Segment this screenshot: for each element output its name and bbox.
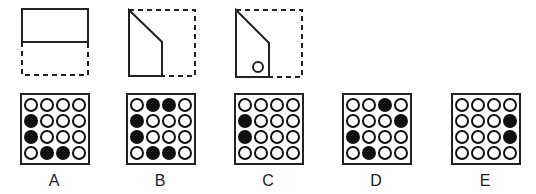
empty-hole-icon [286,98,300,112]
option-d[interactable]: D [342,93,410,190]
empty-hole-icon [24,146,38,160]
empty-hole-icon [40,114,54,128]
empty-hole-icon [56,98,70,112]
punch-step-diagram [232,6,306,80]
option-a[interactable]: A [20,93,88,190]
empty-hole-icon [178,130,192,144]
option-b-grid [126,93,196,165]
empty-hole-icon [346,146,360,160]
filled-hole-icon [24,114,38,128]
option-a-grid [20,93,90,165]
empty-hole-icon [286,146,300,160]
filled-hole-icon [130,114,144,128]
empty-hole-icon [24,98,38,112]
punch-hole-icon [253,62,263,72]
empty-hole-icon [254,130,268,144]
empty-hole-icon [362,130,376,144]
empty-hole-icon [455,114,469,128]
empty-hole-icon [503,146,517,160]
filled-hole-icon [56,146,70,160]
empty-hole-icon [346,98,360,112]
filled-hole-icon [503,130,517,144]
empty-hole-icon [378,130,392,144]
empty-hole-icon [471,130,485,144]
option-c[interactable]: C [234,93,302,190]
empty-hole-icon [487,130,501,144]
empty-hole-icon [270,114,284,128]
option-b-label: B [126,172,194,190]
empty-hole-icon [471,146,485,160]
empty-hole-icon [503,98,517,112]
option-c-label: C [234,172,302,190]
punch-step [232,6,306,80]
option-a-label: A [20,172,88,190]
filled-hole-icon [394,114,408,128]
empty-hole-icon [455,146,469,160]
empty-hole-icon [72,130,86,144]
empty-hole-icon [286,130,300,144]
empty-hole-icon [394,130,408,144]
empty-hole-icon [378,146,392,160]
fold-step-2 [125,6,199,80]
empty-hole-icon [130,98,144,112]
option-e[interactable]: E [451,93,519,190]
filled-hole-icon [238,114,252,128]
filled-hole-icon [238,130,252,144]
empty-hole-icon [56,114,70,128]
empty-hole-icon [487,98,501,112]
empty-hole-icon [394,98,408,112]
option-e-grid [451,93,521,165]
empty-hole-icon [378,114,392,128]
empty-hole-icon [72,146,86,160]
option-d-label: D [342,172,410,190]
filled-hole-icon [40,146,54,160]
empty-hole-icon [254,114,268,128]
empty-hole-icon [40,98,54,112]
empty-hole-icon [286,114,300,128]
empty-hole-icon [254,98,268,112]
empty-hole-icon [254,146,268,160]
empty-hole-icon [178,146,192,160]
empty-hole-icon [146,130,160,144]
filled-hole-icon [346,130,360,144]
empty-hole-icon [394,146,408,160]
option-b[interactable]: B [126,93,194,190]
empty-hole-icon [146,114,160,128]
filled-hole-icon [24,130,38,144]
filled-hole-icon [130,130,144,144]
empty-hole-icon [162,130,176,144]
empty-hole-icon [162,114,176,128]
empty-hole-icon [346,114,360,128]
empty-hole-icon [362,98,376,112]
filled-hole-icon [146,98,160,112]
fold-step-1-diagram [18,6,92,80]
empty-hole-icon [40,130,54,144]
empty-hole-icon [238,146,252,160]
option-c-grid [234,93,304,165]
empty-hole-icon [471,114,485,128]
empty-hole-icon [270,130,284,144]
empty-hole-icon [487,114,501,128]
filled-hole-icon [503,114,517,128]
empty-hole-icon [56,130,70,144]
filled-hole-icon [162,98,176,112]
empty-hole-icon [72,114,86,128]
option-d-grid [342,93,412,165]
empty-hole-icon [72,98,86,112]
filled-hole-icon [162,146,176,160]
empty-hole-icon [178,98,192,112]
empty-hole-icon [270,146,284,160]
empty-hole-icon [238,98,252,112]
empty-hole-icon [130,146,144,160]
empty-hole-icon [178,114,192,128]
fold-step-1 [18,6,92,80]
filled-hole-icon [146,146,160,160]
fold-step-2-diagram [125,6,199,80]
filled-hole-icon [378,98,392,112]
option-e-label: E [451,172,519,190]
empty-hole-icon [362,114,376,128]
empty-hole-icon [270,98,284,112]
empty-hole-icon [455,98,469,112]
empty-hole-icon [471,98,485,112]
empty-hole-icon [487,146,501,160]
